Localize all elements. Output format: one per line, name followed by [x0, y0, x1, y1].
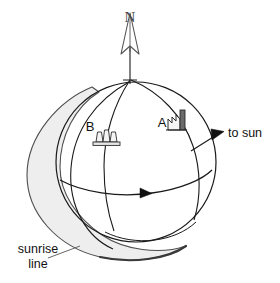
cooling-tower-3	[110, 132, 117, 142]
to-sun-label: to sun	[228, 126, 262, 140]
to-sun-arrow	[191, 129, 224, 151]
site-b-power-plant-icon	[93, 130, 120, 145]
cooling-tower-2	[103, 130, 110, 142]
meridian-through-a	[131, 80, 199, 220]
factory-chimney	[180, 110, 185, 130]
sunrise-label-line1: sunrise	[18, 242, 58, 256]
factory-sawtooth-body	[168, 115, 180, 130]
site-a-label: A	[158, 115, 167, 130]
site-a-factory-icon	[166, 110, 187, 130]
to-sun-arrowhead-icon	[211, 129, 224, 140]
equator-arc	[60, 170, 212, 195]
cooling-tower-1	[96, 132, 103, 142]
north-label: N	[125, 9, 136, 25]
sunrise-shaded-crescent	[27, 87, 186, 260]
power-plant-base	[93, 142, 120, 145]
earth-sunrise-diagram: N B A to sun sunrise line	[0, 0, 280, 283]
diagram-canvas: N B A to sun sunrise line	[0, 0, 280, 283]
lower-latitude-arc	[105, 222, 196, 241]
sunrise-label-line2: line	[28, 257, 48, 271]
crescent-shape	[27, 87, 186, 260]
rotation-arrowhead-icon	[140, 188, 152, 198]
site-b-label: B	[86, 119, 95, 134]
meridian-through-b	[104, 80, 130, 231]
